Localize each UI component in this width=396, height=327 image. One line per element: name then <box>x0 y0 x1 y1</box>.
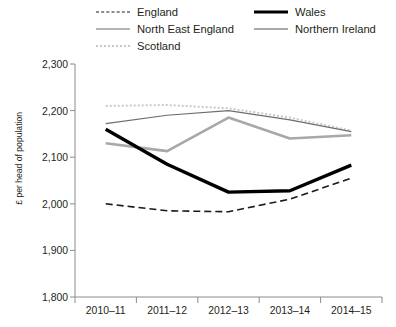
chart-svg <box>0 0 396 327</box>
series-line-north-east-england <box>106 111 352 132</box>
data-series-layer <box>106 105 352 212</box>
series-line-northern-ireland <box>106 118 352 152</box>
axis-lines <box>75 64 382 297</box>
series-line-wales <box>106 129 352 192</box>
y-axis-ticks <box>70 64 75 297</box>
x-axis-ticks <box>75 297 382 303</box>
series-line-england <box>106 178 352 212</box>
chart-container: EnglandNorth East EnglandScotland WalesN… <box>0 0 396 327</box>
